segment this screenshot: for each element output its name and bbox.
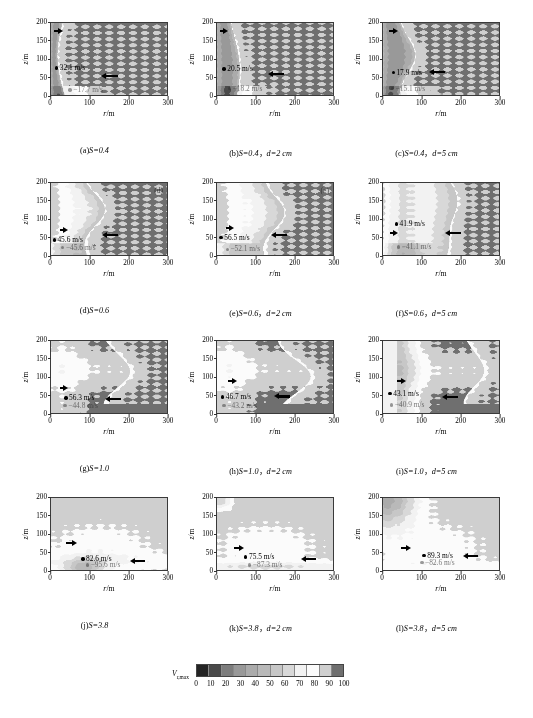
x-axis-tick: 0 bbox=[380, 418, 384, 425]
x-axis-tick: 200 bbox=[455, 418, 466, 425]
velocity-marker-k-outflow: −87.3 m/s bbox=[248, 561, 283, 569]
y-axis-tick: 100 bbox=[202, 216, 213, 223]
y-axis-tick: 150 bbox=[368, 197, 379, 204]
colorbar-tick-label: 30 bbox=[237, 679, 244, 688]
y-tick-mark bbox=[48, 395, 51, 396]
y-tick-label: 50 bbox=[372, 548, 379, 556]
plot-area-g: 56.3 m/s−44.8 m/s0501001502000100200300z… bbox=[50, 340, 168, 414]
y-axis-tick: 100 bbox=[368, 374, 379, 381]
x-tick-mark bbox=[89, 256, 90, 259]
caption-swirl: S=0.4 bbox=[239, 149, 259, 158]
x-axis-tick: 0 bbox=[380, 260, 384, 267]
x-tick-mark bbox=[421, 96, 422, 99]
x-tick-mark bbox=[500, 414, 501, 417]
x-tick-mark bbox=[50, 96, 51, 99]
y-axis-symbol: z bbox=[21, 537, 30, 540]
y-tick-mark bbox=[214, 340, 217, 341]
x-tick-mark bbox=[421, 571, 422, 574]
y-axis-tick: 200 bbox=[368, 494, 379, 501]
x-axis-label: r/m bbox=[435, 109, 446, 118]
x-tick-mark bbox=[295, 256, 296, 259]
y-tick-label: 200 bbox=[368, 178, 379, 186]
marker-dot-icon bbox=[391, 87, 394, 90]
x-axis-tick: 300 bbox=[495, 575, 506, 582]
x-axis-unit: /m bbox=[106, 427, 114, 436]
y-axis-tick: 0 bbox=[209, 253, 213, 260]
y-axis-tick: 100 bbox=[368, 56, 379, 63]
marker-dot-icon bbox=[420, 561, 423, 564]
arrow-shaft bbox=[434, 71, 445, 73]
marker-dot-icon bbox=[397, 245, 400, 248]
x-tick-mark bbox=[129, 256, 130, 259]
marker-dot-icon bbox=[64, 396, 67, 399]
colorbar-tick-label: 0 bbox=[194, 679, 198, 688]
x-tick-mark bbox=[421, 256, 422, 259]
arrow-head bbox=[232, 378, 237, 384]
x-axis-tick: 100 bbox=[416, 575, 427, 582]
y-axis-unit: /m bbox=[21, 372, 30, 380]
arrow-shaft bbox=[106, 75, 117, 77]
x-axis-unit: /m bbox=[272, 269, 280, 278]
y-tick-label: 0 bbox=[375, 252, 379, 260]
caption-depth: d=2 cm bbox=[267, 467, 292, 476]
arrow-shaft bbox=[306, 558, 316, 560]
y-tick-label: 0 bbox=[375, 567, 379, 575]
caption-sep: ， bbox=[424, 624, 432, 633]
velocity-label: 41.9 m/s bbox=[399, 220, 424, 228]
x-tick-mark bbox=[129, 571, 130, 574]
x-tick-mark bbox=[334, 96, 335, 99]
x-tick-label: 300 bbox=[495, 259, 506, 267]
x-tick-mark bbox=[255, 571, 256, 574]
caption-index: (l) bbox=[396, 624, 404, 633]
y-tick-label: 50 bbox=[40, 73, 47, 81]
y-axis-symbol: z bbox=[21, 62, 30, 65]
velocity-marker-f-outflow: −41.1 m/s bbox=[397, 243, 432, 251]
colorbar-tick-label: 50 bbox=[266, 679, 273, 688]
colorbar-swatch-2 bbox=[222, 665, 234, 676]
arrow-shaft bbox=[450, 232, 461, 234]
y-axis-tick: 200 bbox=[202, 494, 213, 501]
x-tick-mark bbox=[382, 96, 383, 99]
y-tick-label: 100 bbox=[368, 373, 379, 381]
y-axis-unit: /m bbox=[353, 54, 362, 62]
x-tick-label: 200 bbox=[289, 99, 300, 107]
x-tick-label: 0 bbox=[380, 259, 384, 267]
plot-area-d: 45.6 m/s−45.6 m/s(d)05010015020001002003… bbox=[50, 182, 168, 256]
y-axis-tick: 150 bbox=[202, 37, 213, 44]
y-tick-label: 0 bbox=[209, 567, 213, 575]
y-tick-label: 100 bbox=[36, 55, 47, 63]
y-tick-mark bbox=[48, 59, 51, 60]
y-axis-symbol: z bbox=[187, 380, 196, 383]
y-tick-mark bbox=[214, 377, 217, 378]
arrow-shaft bbox=[273, 73, 284, 75]
colorbar-swatch-4 bbox=[246, 665, 258, 676]
x-axis-label: r/m bbox=[269, 584, 280, 593]
x-tick-mark bbox=[89, 96, 90, 99]
y-tick-label: 100 bbox=[36, 530, 47, 538]
x-tick-label: 300 bbox=[163, 259, 174, 267]
marker-dot-icon bbox=[422, 554, 425, 557]
y-tick-label: 0 bbox=[209, 410, 213, 418]
y-axis-tick: 0 bbox=[209, 568, 213, 575]
y-tick-label: 0 bbox=[43, 567, 47, 575]
y-tick-mark bbox=[214, 22, 217, 23]
y-axis-unit: /m bbox=[187, 54, 196, 62]
x-tick-mark bbox=[295, 571, 296, 574]
panel-caption-a: (a)S=0.4 bbox=[12, 146, 177, 155]
x-tick-mark bbox=[382, 256, 383, 259]
y-axis-unit: /m bbox=[187, 529, 196, 537]
y-tick-mark bbox=[48, 77, 51, 78]
panel-caption-e: (e)S=0.6，d=2 cm bbox=[178, 306, 343, 318]
caption-sep: ， bbox=[259, 624, 267, 633]
caption-swirl: S=3.8 bbox=[88, 621, 108, 630]
x-tick-mark bbox=[500, 96, 501, 99]
x-tick-label: 100 bbox=[250, 417, 261, 425]
y-tick-mark bbox=[380, 182, 383, 183]
marker-dot-icon bbox=[228, 87, 231, 90]
panel-i: 43.1 m/s−40.9 m/s0501001502000100200300z… bbox=[344, 332, 509, 490]
x-axis-tick: 300 bbox=[495, 100, 506, 107]
y-tick-mark bbox=[380, 200, 383, 201]
y-tick-mark bbox=[214, 534, 217, 535]
y-axis-tick: 200 bbox=[36, 179, 47, 186]
plot-area-k: 75.5 m/s−87.3 m/s0501001502000100200300z… bbox=[216, 497, 334, 571]
